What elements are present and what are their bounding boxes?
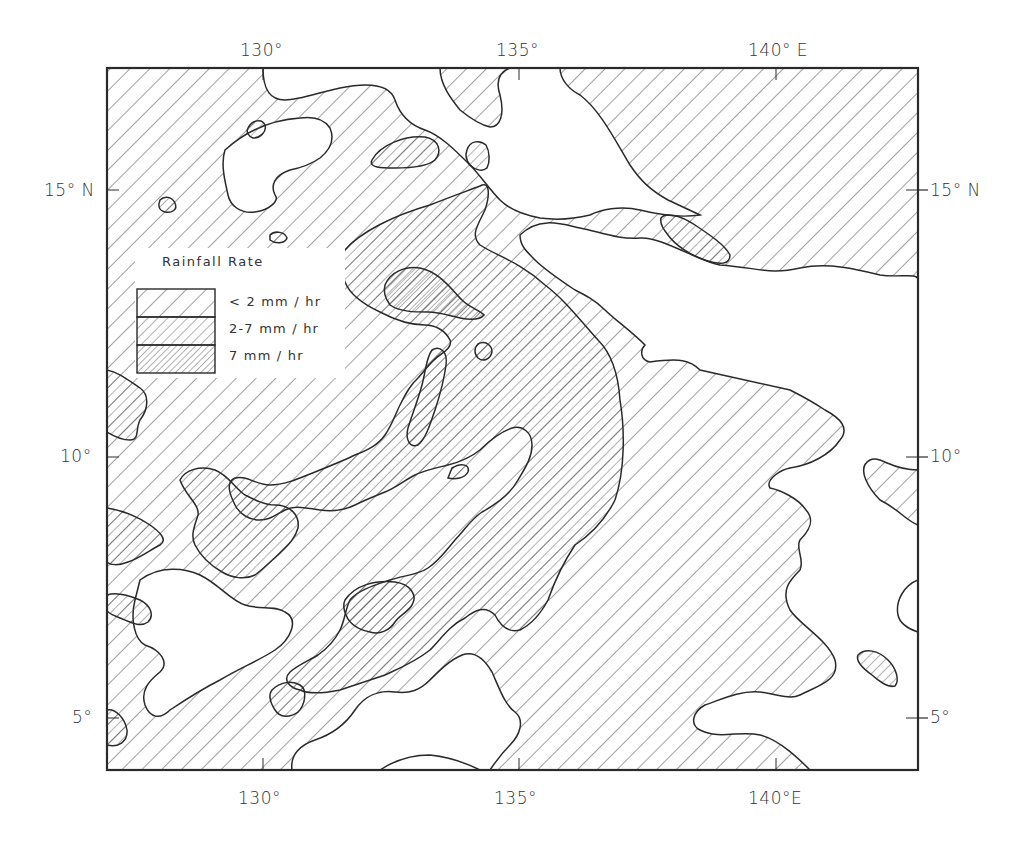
lat-label-left-10: 10°: [60, 446, 92, 466]
legend-label-moderate: 2-7 mm / hr: [229, 321, 319, 336]
lat-label-right-15: 15° N: [930, 180, 981, 200]
legend-swatch-light: [137, 289, 215, 317]
legend-label-heavy: 7 mm / hr: [229, 348, 304, 363]
legend-label-light: < 2 mm / hr: [229, 294, 321, 309]
legend-swatch-moderate: [137, 317, 215, 345]
lon-label-bottom-140: 140°E: [748, 788, 802, 808]
lon-label-top-130: 130°: [240, 40, 283, 60]
lat-label-right-10: 10°: [930, 446, 962, 466]
rainfall-map: [0, 0, 1024, 845]
lat-label-left-5: 5°: [72, 707, 92, 727]
lon-label-bottom-130: 130°: [238, 788, 281, 808]
legend-title: Rainfall Rate: [162, 254, 264, 269]
lon-label-top-135: 135°: [496, 40, 539, 60]
legend-swatches: [137, 289, 215, 373]
rainfall-field: [107, 68, 918, 770]
lat-label-right-5: 5°: [930, 707, 950, 727]
lon-label-bottom-135: 135°: [494, 788, 537, 808]
legend-swatch-heavy: [137, 345, 215, 373]
lat-label-left-15: 15° N: [44, 180, 95, 200]
lon-label-top-140: 140° E: [748, 40, 808, 60]
